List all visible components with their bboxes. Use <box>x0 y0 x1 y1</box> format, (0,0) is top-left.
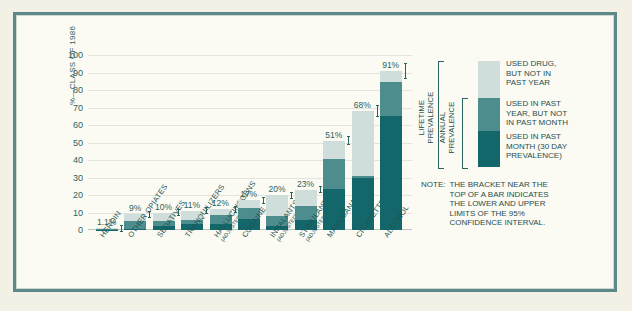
confidence-interval-bracket <box>405 63 406 79</box>
legend-swatch-past-month <box>478 131 500 167</box>
confidence-interval-bracket <box>121 225 122 232</box>
annual-prevalence-bracket <box>462 98 468 169</box>
bar-segment-lifetime <box>323 141 345 159</box>
bar[interactable]: 9%OTHER OPIATES <box>124 214 146 230</box>
bar-value-label: 10% <box>155 202 172 212</box>
legend-label-past-year-not-month: USED IN PAST YEAR, BUT NOT IN PAST MONTH <box>506 99 568 128</box>
note-keyword: NOTE: <box>421 180 445 228</box>
y-axis-tick-label: 30 <box>73 173 83 183</box>
note-text: THE BRACKET NEAR THE TOP OF A BAR INDICA… <box>449 180 548 228</box>
annual-prevalence-label: ANNUALPREVALENCE <box>439 95 456 161</box>
bar-value-label: 51% <box>325 130 342 140</box>
bar[interactable]: 23%STIMULANTS(ADJUSTED) <box>295 190 317 230</box>
bar-segment-lifetime <box>295 190 317 207</box>
y-axis-tick-label: 90 <box>73 68 83 78</box>
legend-swatch-lifetime <box>478 61 500 98</box>
bar-segment-lifetime <box>352 111 374 176</box>
y-axis-tick-label: 60 <box>73 120 83 130</box>
bar-segment-lifetime <box>238 200 260 208</box>
legend-label-past-month: USED IN PAST MONTH (30 DAY PREVALENCE) <box>506 132 567 161</box>
bar[interactable]: 12%HALLUCINOGENS(ADJUSTED) <box>210 209 232 230</box>
confidence-interval-bracket <box>263 197 264 204</box>
bar-value-label: 20% <box>269 184 286 194</box>
y-axis-tick-label: 100 <box>68 50 83 60</box>
confidence-interval-bracket <box>320 186 321 193</box>
bar-value-label: 11% <box>184 200 200 210</box>
confidence-interval-bracket <box>377 105 378 117</box>
y-axis-tick-label: 70 <box>73 103 83 113</box>
bar-value-label: 23% <box>297 179 314 189</box>
bar-group: 1.1%HEROIN9%OTHER OPIATES10%SEDATIVES11%… <box>92 55 408 230</box>
y-axis-tick-label: 0 <box>78 225 83 235</box>
y-axis-tick-label: 50 <box>73 138 83 148</box>
bar[interactable]: 91%ALCOHOL <box>380 71 402 230</box>
bar[interactable]: 17%COCAINE <box>238 200 260 230</box>
bar-segment-past-year <box>323 159 345 189</box>
y-axis-tick-label: 20 <box>73 190 83 200</box>
bar-value-label: 91% <box>382 60 399 70</box>
chart-frame: %—CLASS OF 1986 0102030405060708090100 1… <box>13 12 617 292</box>
bar-value-label: 12% <box>212 198 229 208</box>
y-axis-tick-label: 10 <box>73 208 83 218</box>
confidence-interval-note: NOTE: THE BRACKET NEAR THE TOP OF A BAR … <box>421 180 621 228</box>
legend-label-used-not-past-year: USED DRUG, BUT NOT IN PAST YEAR <box>506 59 556 88</box>
confidence-interval-bracket <box>348 136 349 145</box>
bar[interactable]: 68%CIGARETTES <box>352 111 374 230</box>
bar-segment-past-year <box>380 82 402 116</box>
bar-value-label: 9% <box>129 203 141 213</box>
bar[interactable]: 11%TRANQUILIZERS <box>181 211 203 230</box>
bar[interactable]: 10%SEDATIVES <box>153 213 175 231</box>
legend-swatch-past-year <box>478 98 500 131</box>
bar-value-label: 68% <box>354 100 371 110</box>
bar-value-label: 17% <box>240 189 257 199</box>
y-axis-tick-label: 40 <box>73 155 83 165</box>
poster-page: %—CLASS OF 1986 0102030405060708090100 1… <box>0 0 632 311</box>
legend-swatch-stack <box>478 61 500 167</box>
lifetime-prevalence-label: LIFETIMEPREVALENCE <box>418 80 435 156</box>
bar[interactable]: 51%MARIJUANA <box>323 141 345 230</box>
bar-chart-plot: %—CLASS OF 1986 0102030405060708090100 1… <box>88 55 408 230</box>
bar[interactable]: 1.1%HEROIN <box>96 228 118 230</box>
bar[interactable]: 20%INHALANTS(ADJUSTED) <box>266 195 288 230</box>
bar-segment-lifetime <box>380 71 402 82</box>
y-axis-tick-label: 80 <box>73 85 83 95</box>
